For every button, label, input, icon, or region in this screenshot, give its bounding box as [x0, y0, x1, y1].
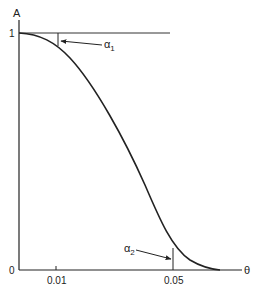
- y-tick-0-label: 0: [9, 265, 15, 276]
- curve-a-theta: [19, 33, 220, 270]
- alpha2-label: α2: [124, 242, 135, 257]
- x-tick-0.01-label: 0.01: [47, 275, 67, 286]
- x-axis-label: θ: [244, 264, 250, 276]
- alpha1-arrow: [61, 41, 102, 45]
- y-axis-label: A: [13, 7, 21, 19]
- y-tick-1-label: 1: [9, 28, 15, 39]
- alpha2-arrow: [136, 250, 171, 259]
- chart: A 1 0 0.01 0.05 θ α1 α2: [0, 0, 260, 294]
- alpha1-label: α1: [104, 38, 115, 53]
- x-tick-0.05-label: 0.05: [164, 275, 184, 286]
